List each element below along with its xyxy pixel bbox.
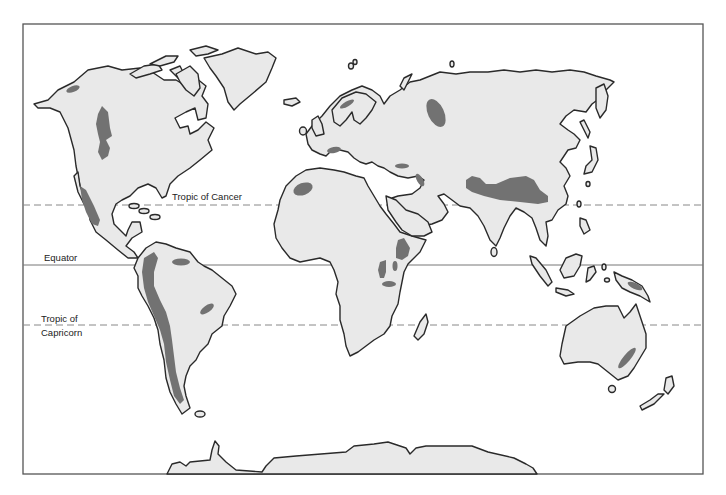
tierra-del-fuego: [195, 411, 205, 417]
arctic-island: [450, 61, 454, 67]
hispaniola: [139, 209, 149, 214]
sri-lanka: [491, 248, 497, 257]
tropic-of-capricorn-label-2: Capricorn: [41, 326, 82, 339]
highlight-caucasus: [395, 164, 409, 169]
highlight-guiana-highlands: [172, 259, 190, 266]
taiwan: [577, 201, 581, 207]
tropic-of-cancer-label: Tropic of Cancer: [172, 190, 242, 203]
kyushu: [586, 182, 590, 187]
world-map: [0, 0, 726, 495]
puerto-rico: [150, 215, 160, 220]
svalbard-2: [353, 60, 357, 65]
equator-label: Equator: [44, 251, 77, 264]
highlight-east-african-highlands-2: [393, 261, 398, 271]
tropic-of-capricorn-label-1: Tropic of: [41, 312, 78, 325]
maluku: [602, 264, 606, 270]
small-island: [605, 278, 610, 282]
ireland: [300, 127, 307, 135]
highlight-east-african-highlands-3: [382, 281, 396, 287]
cuba: [129, 204, 139, 209]
tasmania: [609, 386, 616, 393]
